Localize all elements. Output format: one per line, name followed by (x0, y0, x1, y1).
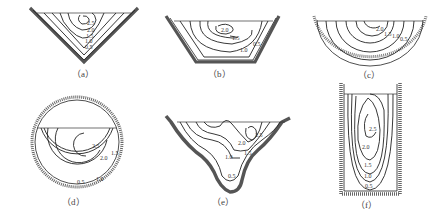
label-f-2.0: 2.0 (362, 144, 370, 150)
panel-c-semicircular: 2.0 1.5 1.0 0.5 （c） (314, 16, 426, 80)
isovel-figure: 2.5 2.0 1.5 1.0 0.5 （a） 2.0 1.5 1.0 0.5 … (0, 0, 432, 219)
caption-e: （e） (212, 197, 234, 207)
label-f-2.5: 2.5 (369, 126, 377, 132)
label-c-1.5: 1.5 (384, 31, 392, 37)
label-b-1.5: 1.5 (232, 35, 240, 41)
label-e-2.0: 2.0 (238, 140, 246, 146)
label-f-0.5: 0.5 (365, 183, 373, 189)
caption-b: （b） (208, 69, 231, 79)
label-e-1.5: 1.5 (244, 150, 252, 156)
label-c-2.0: 2.0 (376, 26, 384, 32)
panel-e-natural-channel: 2.5 2.0 1.5 1.0 0.5 （e） (166, 116, 290, 207)
caption-a: （a） (72, 69, 94, 79)
panel-a-triangular: 2.5 2.0 1.5 1.0 0.5 （a） (30, 8, 138, 79)
label-c-0.5: 0.5 (400, 36, 408, 42)
label-b-1.0: 1.0 (240, 47, 248, 53)
label-d-2.5: 2.5 (92, 143, 100, 149)
caption-f: （f） (356, 200, 377, 210)
label-f-1.5: 1.5 (364, 162, 372, 168)
label-d-1.0: 1.0 (96, 176, 104, 182)
panel-f-rectangular: 2.5 2.0 1.5 1.0 0.5 （f） (341, 83, 400, 210)
caption-d: （d） (62, 197, 85, 207)
caption-c: （c） (358, 70, 380, 80)
label-b-2.0: 2.0 (221, 27, 229, 33)
label-c-1.0: 1.0 (392, 33, 400, 39)
label-d-2.0: 2.0 (100, 155, 108, 161)
label-e-1.0: 1.0 (225, 154, 233, 160)
label-f-1.0: 1.0 (364, 173, 372, 179)
label-a-0.5: 0.5 (85, 44, 93, 50)
label-b-0.5: 0.5 (253, 41, 261, 47)
label-d-0.5: 0.5 (77, 179, 85, 185)
panel-b-trapezoidal: 2.0 1.5 1.0 0.5 （b） (166, 16, 279, 79)
label-e-0.5: 0.5 (228, 173, 236, 179)
label-e-2.5: 2.5 (255, 132, 263, 138)
panel-d-circular-pipe: 2.5 2.0 1.5 1.0 0.5 （d） (32, 97, 122, 207)
label-a-2.5: 2.5 (87, 20, 95, 26)
label-d-1.5: 1.5 (111, 150, 119, 156)
